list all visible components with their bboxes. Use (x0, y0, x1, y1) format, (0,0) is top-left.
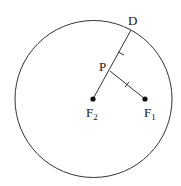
label-f2: F2 (86, 105, 98, 122)
point-f1 (142, 96, 147, 101)
tick-mark-pd (118, 52, 124, 55)
segment-p-f1 (110, 71, 145, 99)
ellipse-construction-diagram: D P F2 F1 (0, 0, 181, 186)
label-p: P (99, 59, 106, 74)
label-f1: F1 (144, 105, 156, 122)
label-d: D (128, 13, 137, 28)
point-f2 (90, 96, 95, 101)
